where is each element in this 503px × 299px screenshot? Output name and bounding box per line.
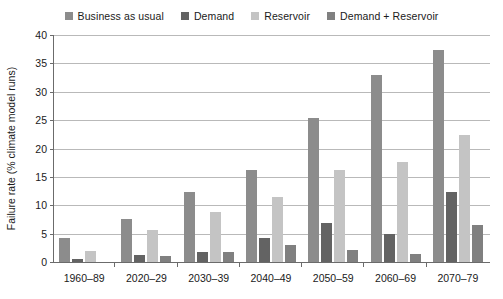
bar-group	[427, 35, 489, 262]
y-tick-label: 10	[35, 200, 47, 211]
bar-groups	[53, 35, 489, 262]
bar-group	[240, 35, 302, 262]
bar-group	[115, 35, 177, 262]
bar	[347, 250, 358, 262]
x-tick-mark	[363, 262, 364, 267]
y-tick-label: 0	[41, 257, 47, 268]
bar	[246, 170, 257, 263]
x-axis-label: 1960–89	[53, 272, 115, 284]
x-axis-label: 2040–49	[240, 272, 302, 284]
bar	[472, 225, 483, 262]
x-axis-labels: 1960–892020–292030–392040–492050–592060–…	[53, 272, 489, 284]
bar	[384, 234, 395, 262]
y-tick-label: 15	[35, 171, 47, 182]
y-tick-label: 35	[35, 58, 47, 69]
bar	[446, 192, 457, 262]
bar	[210, 212, 221, 263]
bar	[134, 255, 145, 262]
bar	[285, 245, 296, 262]
bar	[160, 256, 171, 262]
bar	[308, 118, 319, 262]
bar	[433, 50, 444, 262]
bar	[147, 230, 158, 262]
bar	[397, 162, 408, 262]
bar-group	[364, 35, 426, 262]
bar	[72, 259, 83, 262]
x-tick-mark	[177, 262, 178, 267]
x-tick-mark	[239, 262, 240, 267]
bar	[59, 238, 70, 262]
bar	[85, 251, 96, 262]
y-tick-mark	[50, 262, 54, 263]
x-tick-mark	[426, 262, 427, 267]
bar-group	[53, 35, 115, 262]
x-axis-label: 2020–29	[115, 272, 177, 284]
x-axis-label: 2070–79	[427, 272, 489, 284]
bar	[223, 252, 234, 262]
y-axis-title: Failure rate (% climate model runs)	[4, 35, 18, 262]
bar	[259, 238, 270, 262]
bar-group	[302, 35, 364, 262]
bar-chart: Failure rate (% climate model runs) 0510…	[0, 0, 503, 299]
x-tick-mark	[114, 262, 115, 267]
y-tick-label: 25	[35, 115, 47, 126]
bar	[321, 223, 332, 262]
y-tick-label: 20	[35, 143, 47, 154]
x-axis-label: 2050–59	[302, 272, 364, 284]
y-tick-label: 40	[35, 30, 47, 41]
x-tick-mark	[301, 262, 302, 267]
y-tick-label: 5	[41, 228, 47, 239]
x-axis-label: 2030–39	[178, 272, 240, 284]
bar	[272, 197, 283, 262]
bar	[121, 219, 132, 262]
bar	[371, 75, 382, 262]
bar	[184, 192, 195, 262]
bar	[334, 170, 345, 263]
bar-group	[178, 35, 240, 262]
bar	[197, 252, 208, 262]
y-tick-label: 30	[35, 86, 47, 97]
x-axis-label: 2060–69	[364, 272, 426, 284]
bar	[410, 254, 421, 263]
bar	[459, 135, 470, 262]
